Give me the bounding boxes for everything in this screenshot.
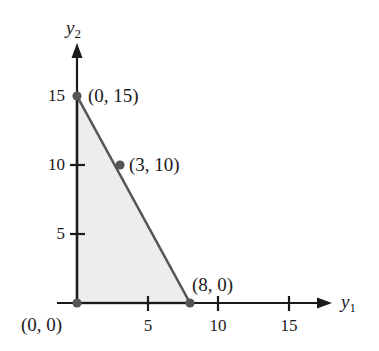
plot-canvas xyxy=(0,0,379,351)
y-axis-label: y2 xyxy=(66,18,81,40)
y-tick-label-5: 5 xyxy=(33,225,65,242)
data-point-3-10 xyxy=(115,160,124,169)
point-label-0-15: (0, 15) xyxy=(88,86,139,105)
x-axis-label-subscript: 1 xyxy=(349,300,356,315)
y-axis-arrowhead xyxy=(72,43,83,58)
x-tick-label-10: 10 xyxy=(203,317,233,334)
y-axis-label-subscript: 2 xyxy=(74,26,81,41)
y-tick-label-10: 10 xyxy=(33,156,65,173)
feasible-region-chart: 15 10 5 5 10 15 (0, 15) (3, 10) (8, 0) (… xyxy=(0,0,379,351)
point-label-8-0: (8, 0) xyxy=(192,275,233,294)
data-point-8-0 xyxy=(185,298,194,307)
x-axis-arrowhead xyxy=(317,298,332,309)
data-point-0-15 xyxy=(72,91,81,100)
x-tick-label-5: 5 xyxy=(133,317,163,334)
y-tick-label-15: 15 xyxy=(33,87,65,104)
x-axis-label: y1 xyxy=(341,292,356,314)
point-label-3-10: (3, 10) xyxy=(129,155,180,174)
x-tick-label-15: 15 xyxy=(274,317,304,334)
data-point-0-0 xyxy=(72,298,81,307)
point-label-0-0: (0, 0) xyxy=(21,315,62,334)
